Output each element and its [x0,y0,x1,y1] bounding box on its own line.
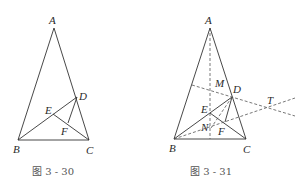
triangle-abc [18,28,89,140]
label-m: M [214,77,225,89]
label-a: A [48,14,56,26]
figure-3-30: A B C D E F 图 3 - 30 [13,14,94,177]
label-d: D [232,83,241,95]
label-c: C [243,143,251,155]
label-a: A [204,14,212,26]
label-f: F [60,125,68,137]
segment-df [68,97,77,123]
label-n: N [200,121,209,133]
label-t: T [267,94,274,106]
label-c: C [86,144,94,156]
geometry-figures: A B C D E F 图 3 - 30 A B C D E F M N T 图… [0,0,308,189]
label-e: E [200,103,208,115]
label-f: F [217,125,225,137]
segment-ec [210,113,246,139]
segment-ec [53,114,89,140]
caption-3-30: 图 3 - 30 [32,166,74,177]
caption-3-31: 图 3 - 31 [190,166,232,177]
dashed-segment-dn [211,97,232,128]
segment-df [225,97,232,122]
label-d: D [78,90,87,102]
figure-3-31: A B C D E F M N T 图 3 - 31 [169,14,295,177]
label-b: B [169,142,176,154]
label-b: B [13,143,20,155]
label-e: E [44,104,52,116]
